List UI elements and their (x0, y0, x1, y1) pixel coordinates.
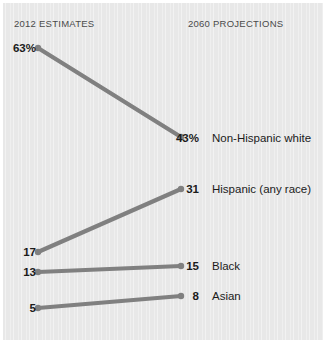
category-label-asian: Asian (212, 290, 241, 302)
chart-panel: 2012 ESTIMATES 2060 PROJECTIONS 63% 43% … (3, 3, 323, 340)
value-left-black: 13 (3, 266, 36, 278)
value-right-hispanic: 31 (165, 183, 199, 195)
slope-chart-plot (3, 3, 323, 340)
series-lines (38, 48, 181, 308)
value-right-black: 15 (165, 260, 199, 272)
slope-line-asian (38, 296, 181, 308)
value-right-asian: 8 (165, 290, 199, 302)
category-label-hispanic: Hispanic (any race) (212, 183, 311, 195)
slope-line-hispanic-any-race (38, 189, 181, 252)
value-right-non-hispanic-white: 43% (165, 132, 199, 144)
slope-line-black (38, 266, 181, 272)
category-label-non-hispanic-white: Non-Hispanic white (212, 132, 311, 144)
value-left-asian: 5 (3, 302, 36, 314)
slope-line-non-hispanic-white (38, 48, 181, 137)
category-label-black: Black (212, 260, 240, 272)
value-left-non-hispanic-white: 63% (3, 42, 36, 54)
value-left-hispanic: 17 (3, 246, 36, 258)
